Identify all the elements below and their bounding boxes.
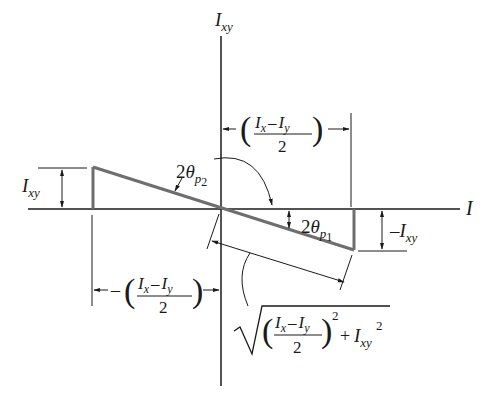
svg-text:2: 2 — [376, 318, 383, 333]
left-ixy-label: Ixy — [21, 175, 40, 200]
svg-text:2: 2 — [293, 338, 302, 357]
svg-text:(: ( — [240, 110, 251, 148]
horizontal-axis-label: I — [465, 197, 474, 219]
svg-text:): ) — [192, 272, 203, 310]
bottom-half-diff-label: – ( Ix–Iy 2 ) — [110, 272, 203, 317]
hypotenuse-formula: ( Ix–Iy 2 ) 2 + Ixy 2 — [234, 306, 390, 357]
vertical-axis-label: Ixy — [214, 9, 233, 34]
svg-text:–: – — [110, 280, 121, 300]
right-ixy-label: –Ixy — [389, 220, 418, 245]
svg-text:(: ( — [262, 312, 273, 350]
mohr-diagram: Ixy –Ixy Ixy I ( Ix–Iy 2 ) 2θp2 2θp1 — [0, 0, 489, 394]
svg-text:): ) — [312, 110, 323, 148]
svg-text:Ix–Iy: Ix–Iy — [274, 313, 310, 335]
svg-text:2: 2 — [159, 298, 168, 317]
svg-text:Ix–Iy: Ix–Iy — [137, 274, 173, 296]
top-half-diff-label: ( Ix–Iy 2 ) — [240, 110, 323, 156]
svg-text:Ixy: Ixy — [353, 325, 372, 350]
left-ixy-dimension — [38, 168, 87, 207]
svg-text:Ix–Iy: Ix–Iy — [254, 113, 290, 135]
theta-p1-label: 2θp1 — [301, 216, 332, 244]
svg-text:(: ( — [124, 272, 135, 310]
svg-text:2: 2 — [278, 137, 287, 156]
svg-text:+: + — [340, 326, 350, 346]
theta-p2-label: 2θp2 — [176, 161, 207, 189]
svg-text:): ) — [321, 312, 332, 350]
svg-text:2: 2 — [332, 308, 339, 323]
theta-p2-arc — [214, 158, 272, 205]
